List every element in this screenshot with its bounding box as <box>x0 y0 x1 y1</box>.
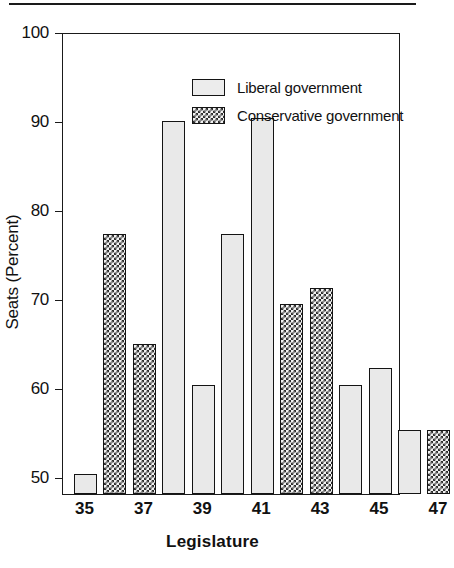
legend-swatch-conservative-icon <box>192 107 225 124</box>
bar-legislature-47 <box>427 430 450 494</box>
y-axis-title: Seats (Percent) <box>3 187 23 357</box>
bar-legislature-35 <box>74 474 97 494</box>
x-axis-tick-label: 37 <box>123 500 163 517</box>
legend-item-liberal: Liberal government <box>192 76 403 98</box>
y-axis-tick-label: 50 <box>31 469 49 486</box>
legend-swatch-liberal-icon <box>192 79 225 96</box>
x-axis-title: Legislature <box>0 532 425 552</box>
bar-legislature-39 <box>192 385 215 494</box>
figure-top-rule <box>9 3 416 5</box>
x-axis-tick-label: 41 <box>241 500 281 517</box>
bar-legislature-41 <box>251 118 274 494</box>
y-axis-tick-label: 70 <box>31 291 49 308</box>
bar-legislature-36 <box>103 234 126 494</box>
x-axis-tick-label: 35 <box>65 500 105 517</box>
legend-item-conservative: Conservative government <box>192 104 403 126</box>
chart-legend: Liberal government Conservative governme… <box>192 76 403 132</box>
bar-legislature-45 <box>369 368 392 494</box>
bar-legislature-42 <box>280 304 303 494</box>
y-axis-tick-label: 60 <box>31 380 49 397</box>
legend-label-liberal: Liberal government <box>237 79 362 96</box>
plot-area: Liberal government Conservative governme… <box>62 33 400 495</box>
y-axis-tick-label: 80 <box>31 202 49 219</box>
x-axis-tick-label: 39 <box>182 500 222 517</box>
bar-legislature-37 <box>133 344 156 494</box>
legend-label-conservative: Conservative government <box>237 107 403 124</box>
bar-legislature-40 <box>221 234 244 494</box>
bar-legislature-38 <box>162 121 185 494</box>
x-axis-tick-label: 45 <box>359 500 399 517</box>
bar-legislature-44 <box>339 385 362 494</box>
y-axis-tick-label: 100 <box>22 24 49 41</box>
x-axis-tick-label: 43 <box>300 500 340 517</box>
y-axis-tick-label: 90 <box>31 113 49 130</box>
x-axis-tick-label: 47 <box>418 500 454 517</box>
bar-legislature-43 <box>310 288 333 494</box>
bar-legislature-46 <box>398 430 421 494</box>
